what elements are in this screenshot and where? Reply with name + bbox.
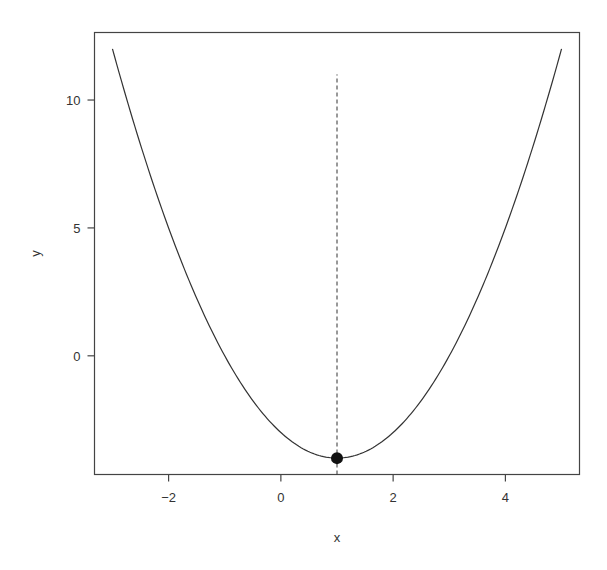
minimum-point	[331, 452, 343, 464]
x-axis: −2024	[161, 475, 509, 505]
x-tick-label: 4	[502, 490, 509, 505]
x-tick-label: −2	[161, 490, 176, 505]
x-tick-label: 0	[277, 490, 284, 505]
x-axis-title: x	[334, 530, 341, 545]
y-axis: 0510	[66, 93, 94, 364]
y-axis-title: y	[28, 250, 43, 257]
y-tick-label: 5	[73, 221, 80, 236]
x-tick-label: 2	[390, 490, 397, 505]
chart: 0510 −2024 x y	[0, 0, 607, 570]
y-tick-label: 10	[66, 93, 80, 108]
y-tick-label: 0	[73, 349, 80, 364]
